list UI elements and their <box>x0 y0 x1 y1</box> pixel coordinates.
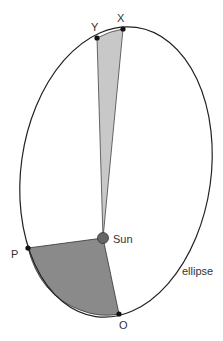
point-p <box>25 245 30 250</box>
label-y: Y <box>91 21 99 33</box>
label-ellipse: ellipse <box>182 265 213 277</box>
orbit-diagram: X Y P O Sun ellipse <box>0 0 223 341</box>
label-sun: Sun <box>113 233 133 245</box>
label-o: O <box>119 319 128 331</box>
point-x <box>120 26 125 31</box>
point-y <box>94 35 99 40</box>
label-x: X <box>117 12 125 24</box>
point-o <box>116 311 121 316</box>
sector-xy <box>97 29 123 238</box>
label-p: P <box>11 248 18 260</box>
sun-icon <box>98 233 109 244</box>
